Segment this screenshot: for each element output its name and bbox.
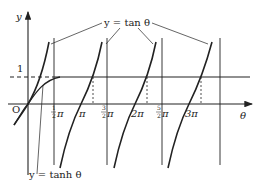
tick-five-halves-pi: 5 2 π — [156, 104, 169, 119]
svg-text:3π: 3π — [185, 108, 198, 119]
svg-text:5: 5 — [157, 104, 161, 111]
leader-lines — [37, 23, 208, 174]
svg-text:2π: 2π — [130, 108, 144, 119]
y-axis-label: y — [15, 11, 22, 22]
svg-text:π: π — [78, 108, 86, 119]
y-tick-1-label: 1 — [17, 63, 23, 74]
tan-label: y = tan θ — [103, 17, 150, 28]
svg-text:π: π — [56, 108, 64, 119]
svg-text:π: π — [106, 108, 114, 119]
tick-half-pi: 1 2 π — [51, 104, 64, 119]
origin-label: O — [12, 104, 20, 115]
svg-text:2: 2 — [52, 112, 56, 119]
tick-three-pi: 3π — [185, 108, 198, 119]
svg-text:2: 2 — [157, 112, 161, 119]
tan-curves — [14, 42, 212, 168]
svg-text:2: 2 — [102, 112, 106, 119]
intersection-dashes — [93, 77, 201, 104]
x-axis-label: θ — [240, 110, 246, 121]
svg-text:1: 1 — [52, 104, 56, 111]
tick-three-halves-pi: 3 2 π — [101, 104, 114, 119]
tan-tanh-diagram: y θ O 1 y = tan θ y = tanh θ 1 2 π π 3 2… — [0, 0, 266, 189]
svg-text:π: π — [161, 108, 169, 119]
tick-pi: π — [78, 108, 86, 119]
svg-text:3: 3 — [102, 104, 106, 111]
tick-two-pi: 2π — [130, 108, 144, 119]
tanh-label: y = tanh θ — [28, 169, 81, 180]
